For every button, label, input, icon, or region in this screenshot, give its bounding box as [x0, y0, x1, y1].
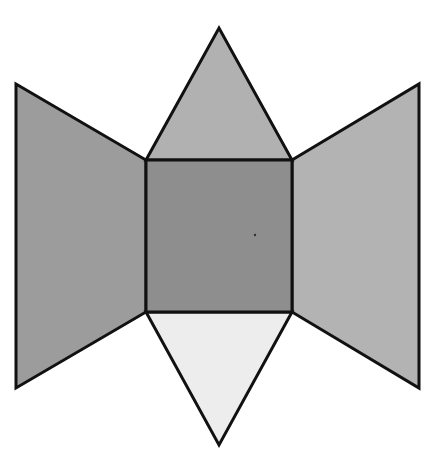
diagram-canvas [0, 0, 434, 469]
center-dot-mark [254, 234, 256, 236]
bottom-triangle-face [146, 312, 292, 445]
right-trapezoid-face [292, 84, 419, 388]
net-diagram [0, 0, 434, 469]
left-trapezoid-face [16, 84, 146, 388]
center-square-face [146, 160, 292, 312]
top-triangle-face [146, 28, 292, 160]
